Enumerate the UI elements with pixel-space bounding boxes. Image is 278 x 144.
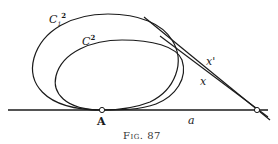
label-inner-curve: C2 [82, 34, 95, 47]
point-a-marker [99, 107, 104, 112]
label-inner-curve-sup: 2 [90, 33, 95, 42]
label-tangent-x-prime: x' [206, 56, 215, 67]
intersection-point-marker [254, 107, 259, 112]
label-point-a: A [97, 116, 106, 127]
figure-87: C12 C2 x' x A a Fig. 87 [0, 0, 278, 144]
diagram-canvas [0, 0, 278, 144]
label-tangent-x: x [200, 76, 206, 87]
label-baseline-a: a [188, 115, 195, 126]
tangent-line-x [160, 36, 268, 117]
outer-conic-curve [33, 14, 179, 110]
label-outer-curve-sub: 1 [57, 20, 61, 27]
figure-caption: Fig. 87 [123, 131, 161, 141]
label-outer-curve-sup: 2 [61, 11, 66, 20]
label-outer-curve: C12 [49, 12, 66, 27]
inner-conic-curve [55, 40, 183, 110]
